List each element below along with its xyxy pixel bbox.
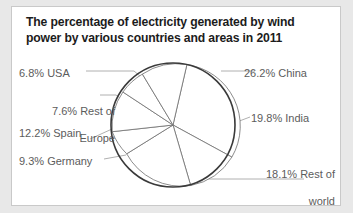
pie-label-rest-of-world: 18.1% Rest of world — [247, 154, 335, 213]
pie-label-india: 19.8% India — [251, 112, 309, 126]
pie-label-germany: 9.3% Germany — [19, 155, 92, 169]
pie-slices — [112, 64, 240, 186]
pie-label-rest-of-world-line1: 18.1% Rest of — [266, 168, 335, 180]
pie-label-usa: 6.8% USA — [19, 67, 70, 81]
pie-label-rest-of-europe: 7.6% Rest of Europe — [19, 91, 115, 159]
pie-label-rest-of-world-line2: world — [309, 195, 335, 207]
chart-screenshot: The percentage of electricity generated … — [0, 0, 353, 213]
pie-label-china: 26.2% China — [244, 67, 307, 81]
pie-label-rest-of-europe-line1: 7.6% Rest of — [52, 105, 115, 117]
chart-panel: The percentage of electricity generated … — [11, 6, 341, 206]
pie-label-spain: 12.2% Spain — [19, 127, 81, 141]
pie-label-rest-of-europe-line2: Europe — [80, 132, 115, 144]
